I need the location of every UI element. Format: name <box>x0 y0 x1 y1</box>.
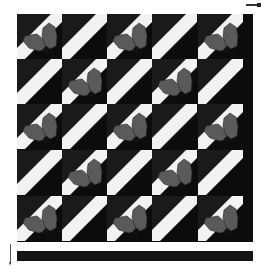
left-arrow-marker <box>10 244 11 264</box>
top-right-marker <box>246 4 260 6</box>
holly-tile <box>107 104 152 149</box>
stripe-tile <box>152 104 197 149</box>
stripe-tile <box>62 104 107 149</box>
stripe-tile <box>152 196 197 241</box>
holly-tile <box>107 14 152 59</box>
holly-tile <box>107 196 152 241</box>
stripe-tile <box>62 196 107 241</box>
holly-tile <box>62 59 107 104</box>
stripe-tile <box>17 59 62 104</box>
stripe-tile <box>62 14 107 59</box>
bottom-border-strip <box>17 251 253 261</box>
holly-tile <box>198 14 243 59</box>
holly-tile <box>198 196 243 241</box>
quilt-grid <box>17 14 253 242</box>
stripe-tile <box>198 150 243 195</box>
holly-tile <box>17 104 62 149</box>
stripe-tile <box>107 59 152 104</box>
stripe-tile <box>107 150 152 195</box>
holly-tile <box>62 150 107 195</box>
holly-tile <box>17 196 62 241</box>
holly-tile <box>17 14 62 59</box>
holly-tile <box>198 104 243 149</box>
stripe-tile <box>198 59 243 104</box>
stripe-tile <box>17 150 62 195</box>
holly-tile <box>152 150 197 195</box>
stripe-tile <box>152 14 197 59</box>
holly-tile <box>152 59 197 104</box>
